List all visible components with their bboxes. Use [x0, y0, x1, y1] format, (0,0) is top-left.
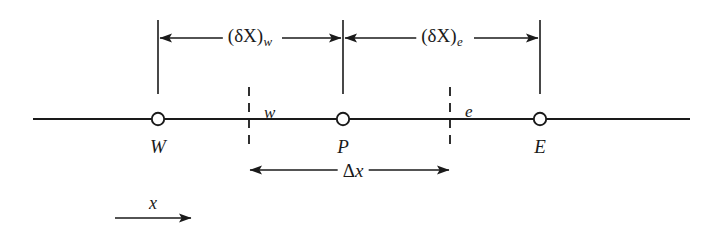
node-label-west: W: [150, 137, 166, 156]
dimension-label-cell-width-delta: Δ: [343, 160, 355, 181]
dimension-label-delta-x-east: (δX)e: [416, 26, 467, 49]
dimension-label-delta-x-west-main: (δX): [228, 25, 263, 46]
dimension-label-delta-x-west: (δX)w: [223, 26, 277, 49]
node-marker-east: [534, 113, 546, 125]
figure-canvas: [0, 0, 711, 236]
dimension-label-cell-width: Δx: [338, 161, 369, 180]
node-label-point: P: [337, 137, 349, 156]
node-marker-point: [337, 113, 349, 125]
dimension-label-delta-x-west-subscript: w: [263, 35, 272, 50]
node-marker-west: [152, 113, 164, 125]
node-label-east: E: [534, 137, 546, 156]
dimension-label-cell-width-x: x: [355, 160, 363, 181]
dimension-label-delta-x-east-main: (δX): [421, 25, 456, 46]
face-label-west: w: [264, 104, 275, 121]
finite-volume-grid-figure: (δX)w (δX)e Δx W P E w e x: [0, 0, 711, 236]
face-label-east: e: [465, 103, 473, 120]
x-direction-label: x: [149, 194, 157, 212]
dimension-label-delta-x-east-subscript: e: [457, 35, 463, 50]
